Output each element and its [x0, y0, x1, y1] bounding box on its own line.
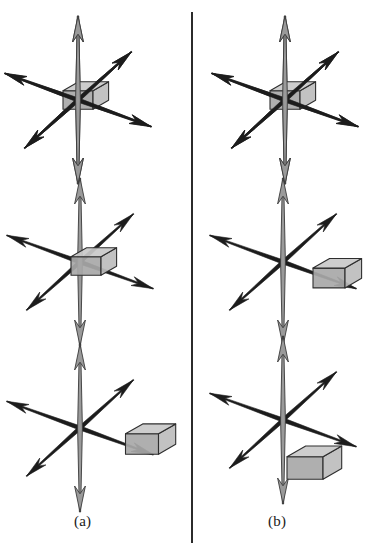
- cube-a3-cube-front-face: [126, 434, 159, 454]
- cube-b2-cube-front-face: [313, 268, 345, 288]
- axes-panel-a3: [7, 344, 154, 512]
- vertical-axis-over-a1-shaft: [76, 16, 81, 184]
- caption-b: (b): [268, 513, 286, 530]
- vertical-axis-b2-shaft: [281, 178, 286, 346]
- vertical-axis-a3-shaft: [78, 344, 83, 512]
- vertical-axis-over-b1-shaft: [283, 16, 288, 184]
- cube-b3: [287, 446, 342, 479]
- vertical-axis-b3-shaft: [281, 336, 286, 504]
- column-divider: [191, 12, 193, 543]
- cube-b3-cube-front-face: [287, 457, 323, 479]
- axes-panel-b3: [210, 336, 357, 504]
- cube-a3: [126, 424, 176, 454]
- figure-canvas: (a) (b): [0, 0, 384, 550]
- caption-a: (a): [74, 513, 91, 530]
- axes-overlay-a1: [5, 16, 152, 184]
- cube-b2: [313, 259, 362, 288]
- cube-a2-cube-front-face: [71, 257, 101, 276]
- axes-overlay-b1: [212, 16, 359, 184]
